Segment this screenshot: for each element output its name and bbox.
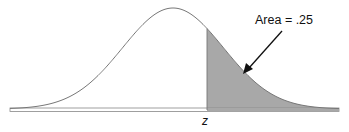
z-tick-label: z xyxy=(201,114,208,128)
annotation-arrow xyxy=(249,31,282,68)
baseline-shaded-segment xyxy=(207,108,339,112)
area-annotation: Area = .25 xyxy=(255,13,313,27)
normal-distribution-figure: Area = .25 z xyxy=(0,0,349,132)
